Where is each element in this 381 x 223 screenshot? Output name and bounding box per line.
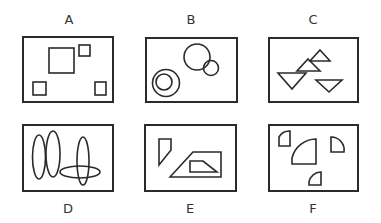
panel-c (269, 38, 358, 102)
panel-f (269, 125, 358, 191)
panel-a (23, 37, 113, 102)
panel-b (146, 38, 237, 102)
panel-e (145, 125, 236, 191)
panel-d (23, 125, 113, 191)
figure-panels (0, 0, 381, 223)
